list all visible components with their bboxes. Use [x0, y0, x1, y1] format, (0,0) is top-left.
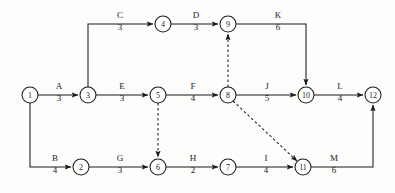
- node-4-label: 4: [161, 20, 165, 29]
- edge-label-K-activity: K: [275, 10, 282, 20]
- edge-label-J-activity: J: [265, 81, 269, 91]
- node-6[interactable]: 6: [150, 159, 166, 175]
- edge-H: H 2: [166, 153, 218, 175]
- edge-L: L 4: [314, 81, 363, 103]
- node-2-label: 2: [79, 163, 83, 172]
- edge-label-L-activity: L: [337, 81, 343, 91]
- node-9-label: 9: [226, 20, 230, 29]
- edge-D: D 3: [171, 10, 218, 32]
- edge-label-M-duration: 6: [332, 165, 337, 175]
- node-9[interactable]: 9: [220, 16, 236, 32]
- edge-label-A-duration: 3: [57, 93, 62, 103]
- node-2[interactable]: 2: [73, 159, 89, 175]
- edge-label-F-activity: F: [190, 81, 195, 91]
- edge-label-I-activity: I: [265, 153, 268, 163]
- node-11-label: 11: [299, 163, 307, 172]
- node-12-label: 12: [369, 91, 377, 100]
- node-1[interactable]: 1: [22, 87, 38, 103]
- node-8[interactable]: 8: [220, 87, 236, 103]
- node-4[interactable]: 4: [155, 16, 171, 32]
- edge-label-M-activity: M: [330, 153, 338, 163]
- edge-C: C 3: [88, 10, 153, 87]
- edge-M: M 6: [311, 105, 373, 175]
- node-12[interactable]: 12: [365, 87, 381, 103]
- edge-F: F 4: [166, 81, 218, 103]
- node-10[interactable]: 10: [298, 87, 314, 103]
- node-10-label: 10: [302, 91, 310, 100]
- edge-J: J 5: [236, 81, 296, 103]
- edge-label-A-activity: A: [56, 81, 63, 91]
- edge-label-F-duration: 4: [191, 93, 196, 103]
- edge-label-E-activity: E: [119, 81, 125, 91]
- edge-K: K 6: [236, 10, 306, 85]
- edge-label-E-duration: 3: [120, 93, 125, 103]
- edge-label-C-activity: C: [117, 10, 123, 20]
- node-5-label: 5: [156, 91, 160, 100]
- edge-I: I 4: [236, 153, 293, 175]
- edge-label-K-duration: 6: [276, 22, 281, 32]
- dummy-edge-8-11: [233, 101, 297, 161]
- edge-label-C-duration: 3: [118, 22, 123, 32]
- edge-label-B-duration: 4: [53, 165, 58, 175]
- edge-B: B 4: [30, 103, 71, 175]
- node-3[interactable]: 3: [80, 87, 96, 103]
- edge-label-H-activity: H: [190, 153, 197, 163]
- node-11[interactable]: 11: [295, 159, 311, 175]
- edge-A: A 3: [38, 81, 78, 103]
- edge-label-I-duration: 4: [264, 165, 269, 175]
- node-1-label: 1: [28, 91, 32, 100]
- edge-label-G-activity: G: [117, 153, 124, 163]
- node-7-label: 7: [226, 163, 230, 172]
- node-6-label: 6: [156, 163, 160, 172]
- edge-label-H-duration: 2: [191, 165, 196, 175]
- node-5[interactable]: 5: [150, 87, 166, 103]
- edge-label-D-duration: 3: [194, 22, 199, 32]
- edge-label-B-activity: B: [52, 153, 58, 163]
- edge-label-D-activity: D: [193, 10, 200, 20]
- network-diagram: A 3 B 4 C 3 D 3 E 3 F: [0, 0, 395, 193]
- node-7[interactable]: 7: [220, 159, 236, 175]
- node-3-label: 3: [86, 91, 90, 100]
- edge-label-L-duration: 4: [338, 93, 343, 103]
- node-8-label: 8: [226, 91, 230, 100]
- edge-E: E 3: [96, 81, 148, 103]
- edge-label-G-duration: 3: [118, 165, 123, 175]
- edge-G: G 3: [89, 153, 148, 175]
- edge-label-J-duration: 5: [265, 93, 270, 103]
- network-diagram-canvas: A 3 B 4 C 3 D 3 E 3 F: [0, 0, 395, 193]
